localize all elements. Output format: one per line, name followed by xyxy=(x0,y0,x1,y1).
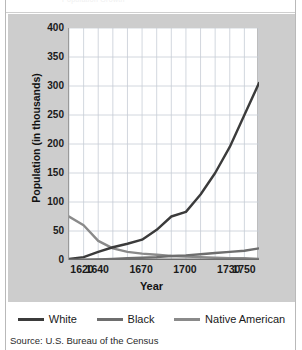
figure-top-rule xyxy=(6,12,295,13)
chart-figure: Population Growth Population (in thousan… xyxy=(0,0,302,350)
legend-item[interactable]: Black xyxy=(97,313,155,325)
legend-swatch-icon xyxy=(174,318,200,321)
x-tick-label: 1640 xyxy=(86,263,109,275)
chart-panel: Population (in thousands) 05010015020025… xyxy=(8,14,295,302)
x-axis-tick-labels: 162016401670170017301750 xyxy=(68,263,258,277)
plot-svg xyxy=(69,28,259,260)
x-tick-label: 1700 xyxy=(173,263,196,275)
y-axis-tick-labels: 050100150200250300350400 xyxy=(26,28,64,260)
legend-label: Native American xyxy=(205,313,285,325)
series-line-white xyxy=(69,83,259,259)
y-tick-label: 400 xyxy=(30,23,64,33)
x-tick-label: 1670 xyxy=(129,263,152,275)
source-note: Source: U.S. Bureau of the Census xyxy=(10,335,158,346)
y-tick-label: 350 xyxy=(30,52,64,62)
x-tick-label: 1750 xyxy=(232,263,255,275)
y-tick-label: 50 xyxy=(30,226,64,236)
figure-right-rule xyxy=(295,0,296,350)
legend-swatch-icon xyxy=(97,318,123,321)
plot-area xyxy=(68,28,258,260)
y-tick-label: 250 xyxy=(30,110,64,120)
y-tick-label: 0 xyxy=(30,255,64,265)
figure-left-rule xyxy=(5,0,6,350)
x-axis-title: Year xyxy=(8,280,295,292)
y-tick-label: 200 xyxy=(30,139,64,149)
legend-label: White xyxy=(49,313,77,325)
y-tick-label: 300 xyxy=(30,81,64,91)
chart-legend: WhiteBlackNative American xyxy=(8,310,295,328)
y-tick-label: 100 xyxy=(30,197,64,207)
legend-swatch-icon xyxy=(18,318,44,321)
clipped-caption: Population Growth xyxy=(62,0,202,4)
legend-item[interactable]: Native American xyxy=(174,313,285,325)
legend-label: Black xyxy=(128,313,155,325)
legend-item[interactable]: White xyxy=(18,313,77,325)
y-tick-label: 150 xyxy=(30,168,64,178)
